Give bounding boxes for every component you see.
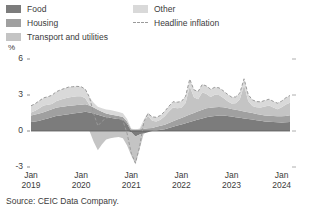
x-tick-year: 2022 (161, 180, 201, 190)
x-tick-year: 2020 (61, 180, 101, 190)
source-note: Source: CEIC Data Company. (6, 196, 119, 206)
legend-item-housing: Housing (6, 16, 108, 29)
legend-swatch-housing (6, 19, 21, 27)
x-tick-year: 2023 (212, 180, 252, 190)
legend-item-headline-inflation: Headline inflation (133, 16, 219, 29)
y-tick-label: 6 (7, 53, 23, 63)
x-tick-year: 2024 (262, 180, 302, 190)
x-tick-label: Jan2022 (161, 170, 201, 190)
x-tick-month: Jan (212, 170, 252, 180)
legend-column-left: Food Housing Transport and utilities (6, 2, 108, 44)
legend-label-other: Other (154, 4, 175, 14)
x-tick-label: Jan2020 (61, 170, 101, 190)
legend-column-right: Other Headline inflation (133, 2, 219, 30)
legend-label-transport-and-utilities: Transport and utilities (27, 32, 108, 42)
legend-swatch-transport-and-utilities (6, 33, 21, 41)
x-tick-year: 2021 (111, 180, 151, 190)
legend-swatch-food (6, 5, 21, 13)
legend-label-food: Food (27, 4, 46, 14)
chart-plot-area: % 630-3Jan2019Jan2020Jan2021Jan2022Jan20… (0, 42, 314, 192)
legend-item-other: Other (133, 2, 219, 15)
legend-label-headline-inflation: Headline inflation (154, 18, 219, 28)
y-tick-label: 0 (7, 125, 23, 135)
y-tick-label: 3 (7, 89, 23, 99)
x-tick-label: Jan2019 (11, 170, 51, 190)
x-tick-month: Jan (61, 170, 101, 180)
legend-item-food: Food (6, 2, 108, 15)
legend-swatch-other (133, 5, 148, 13)
chart-legend: Food Housing Transport and utilities Oth… (0, 0, 314, 42)
x-tick-month: Jan (111, 170, 151, 180)
x-tick-label: Jan2021 (111, 170, 151, 190)
x-tick-label: Jan2023 (212, 170, 252, 190)
x-tick-year: 2019 (11, 180, 51, 190)
legend-label-housing: Housing (27, 18, 58, 28)
x-tick-month: Jan (262, 170, 302, 180)
inflation-contributions-figure: Food Housing Transport and utilities Oth… (0, 0, 314, 213)
x-tick-label: Jan2024 (262, 170, 302, 190)
x-tick-month: Jan (11, 170, 51, 180)
legend-dashed-line-icon (133, 19, 148, 27)
x-tick-month: Jan (161, 170, 201, 180)
